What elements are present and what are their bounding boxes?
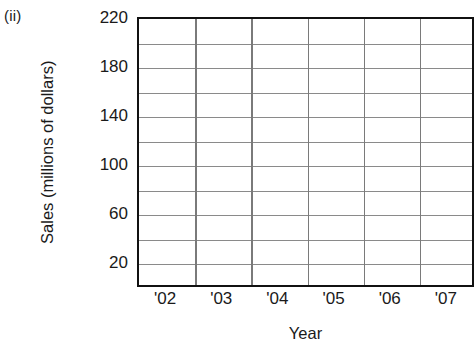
horizontal-gridline [139, 215, 472, 216]
horizontal-gridline [139, 264, 472, 265]
x-axis-tick-label: '05 [323, 290, 345, 307]
y-axis-tick-label: 100 [100, 156, 128, 173]
horizontal-gridline [139, 44, 472, 45]
horizontal-gridline [139, 117, 472, 118]
x-axis-tick-label: '04 [266, 290, 288, 307]
y-axis-title-container: Sales (millions of dollars) [36, 17, 60, 287]
y-axis-tick-label: 180 [100, 58, 128, 75]
horizontal-gridline [139, 142, 472, 143]
horizontal-gridline [139, 166, 472, 167]
figure-enumeration-label: (ii) [4, 8, 21, 23]
vertical-gridline [195, 19, 197, 285]
plot-area [137, 17, 474, 287]
grid-lines [139, 19, 472, 285]
vertical-gridline [420, 19, 422, 285]
horizontal-gridline [139, 68, 472, 69]
horizontal-gridline [139, 191, 472, 192]
y-axis-tick-label: 20 [109, 254, 128, 271]
x-axis-tick-label: '02 [154, 290, 176, 307]
x-axis-tick-labels: '02'03'04'05'06'07 [137, 290, 474, 314]
horizontal-gridline [139, 240, 472, 241]
x-axis-tick-label: '07 [435, 290, 457, 307]
y-axis-tick-label: 220 [100, 9, 128, 26]
vertical-gridline [308, 19, 310, 285]
x-axis-title: Year [137, 325, 474, 342]
y-axis-title: Sales (millions of dollars) [40, 60, 57, 243]
x-axis-tick-label: '03 [210, 290, 232, 307]
horizontal-gridline [139, 93, 472, 94]
y-axis-tick-label: 60 [109, 205, 128, 222]
vertical-gridline [251, 19, 253, 285]
vertical-gridline [364, 19, 366, 285]
y-axis-tick-labels: 2201801401006020 [62, 17, 132, 287]
x-axis-tick-label: '06 [379, 290, 401, 307]
y-axis-tick-label: 140 [100, 107, 128, 124]
